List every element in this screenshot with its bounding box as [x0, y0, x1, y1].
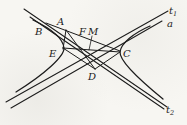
figure-strokes: [6, 9, 168, 109]
point-label-M: M: [87, 26, 99, 37]
hyperbola-right-branch: [120, 26, 163, 99]
point-label-B: B: [34, 26, 42, 37]
label-M-leader: [89, 36, 92, 50]
point-label-E: E: [48, 48, 57, 59]
line-label-a: a: [167, 18, 173, 29]
line-label-t1: t1: [169, 5, 177, 18]
line-label-t2: t2: [166, 104, 174, 117]
asymptote-line-a: [11, 21, 162, 108]
geometry-figure-svg: ABEFMCDt1at2: [0, 0, 187, 125]
point-label-C: C: [123, 48, 131, 59]
scanned-geometry-figure: ABEFMCDt1at2: [0, 0, 187, 125]
point-label-F: F: [78, 26, 87, 37]
figure-labels: ABEFMCDt1at2: [34, 5, 177, 117]
point-label-A: A: [56, 16, 64, 27]
point-label-D: D: [87, 71, 96, 82]
